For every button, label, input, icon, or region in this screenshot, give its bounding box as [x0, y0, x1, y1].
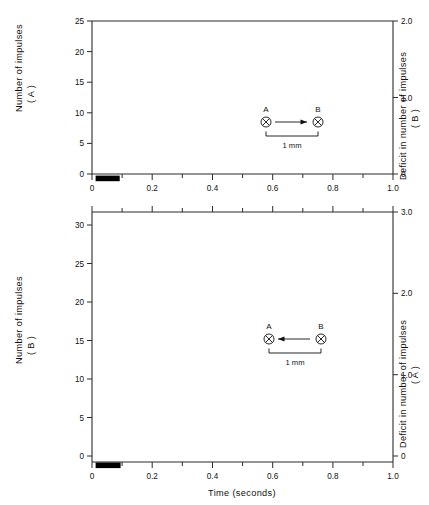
top-panel-x-ticks: 0 0.2 0.4 0.6 0.8 1.0: [90, 174, 399, 193]
bottom-panel-ytick-30: 30: [75, 221, 85, 230]
top-panel-ytick-5: 5: [79, 139, 84, 148]
top-panel: Number of impulses ( A ) Deficit in numb…: [0, 0, 429, 200]
top-panel-y-axis-title: Number of impulses ( A ): [14, 24, 36, 112]
bottom-panel-ytick-0: 0: [79, 452, 84, 461]
bottom-inset-label-left: A: [266, 322, 272, 331]
bottom-panel-svg: Number of impulses ( B ) Deficit in numb…: [0, 196, 429, 505]
top-panel-ytick-15: 15: [75, 78, 85, 87]
top-panel-y2label-line1: Deficit in number of impulses: [398, 52, 408, 180]
top-panel-xtick-0.2: 0.2: [147, 184, 159, 193]
bottom-panel-y2-axis-title: Deficit in number of impulses ( A ): [398, 320, 420, 448]
bottom-panel-x-ticks: 0 0.2 0.4 0.6 0.8 1.0: [90, 462, 399, 481]
bottom-panel-y-ticks: 0 5 10 15 20 25 30: [75, 221, 92, 461]
top-panel-ytick-25: 25: [75, 17, 85, 26]
bottom-panel-ytick-5: 5: [79, 414, 84, 423]
bottom-panel-xtick-1.0: 1.0: [387, 472, 399, 481]
top-panel-xtick-0.6: 0.6: [267, 184, 279, 193]
top-panel-y2label-line2: ( B ): [410, 109, 420, 128]
bottom-inset-label-right: B: [318, 322, 323, 331]
top-panel-ylabel-line1: Number of impulses: [14, 24, 24, 112]
bottom-panel-y2tick-0: 0: [401, 452, 406, 461]
bottom-panel-y-axis-title: Number of impulses ( B ): [14, 276, 36, 364]
top-panel-xtick-0: 0: [90, 184, 95, 193]
bottom-panel-xtick-0.2: 0.2: [147, 472, 159, 481]
bottom-panel-inset-diagram: A B: [264, 322, 326, 367]
top-panel-stimulus-bar: [96, 176, 120, 182]
bottom-panel-xtick-0.8: 0.8: [327, 472, 339, 481]
bottom-panel-xlabel: Time (seconds): [208, 488, 276, 498]
bottom-panel-top-x-ticks: [92, 206, 393, 212]
bottom-panel-xtick-0.4: 0.4: [207, 472, 219, 481]
top-panel-inset-diagram: A B: [261, 105, 323, 150]
top-panel-xtick-1.0: 1.0: [387, 184, 399, 193]
bottom-panel-ylabel-line2: ( B ): [26, 336, 36, 355]
bottom-panel-xtick-0.6: 0.6: [267, 472, 279, 481]
top-panel-ylabel-line2: ( A ): [26, 85, 36, 103]
bottom-panel-y2tick-3: 3.0: [401, 208, 413, 217]
bottom-inset-scale-label: 1 mm: [286, 358, 305, 367]
bottom-inset-arrow-left-icon: [278, 336, 310, 341]
bottom-panel-ylabel-line1: Number of impulses: [14, 276, 24, 364]
top-inset-label-right: B: [315, 105, 320, 114]
top-inset-scale-label: 1 mm: [283, 141, 302, 150]
top-panel-xtick-0.4: 0.4: [207, 184, 219, 193]
top-panel-y2-axis-title: Deficit in number of impulses ( B ): [398, 52, 420, 180]
top-inset-arrow-right-icon: [275, 119, 307, 124]
bottom-panel: Number of impulses ( B ) Deficit in numb…: [0, 196, 429, 505]
bottom-panel-ytick-10: 10: [75, 375, 85, 384]
top-inset-electrode-b-icon: [313, 117, 323, 127]
bottom-panel-ytick-20: 20: [75, 298, 85, 307]
bottom-inset-electrode-b-icon: [316, 334, 326, 344]
bottom-panel-y2label-line1: Deficit in number of impulses: [398, 320, 408, 448]
top-panel-ytick-20: 20: [75, 48, 85, 57]
top-panel-y-ticks: 0 5 10 15 20 25: [75, 17, 92, 179]
top-panel-y2tick-1: 1.0: [401, 94, 413, 103]
bottom-panel-xtick-0: 0: [90, 472, 95, 481]
top-inset-label-left: A: [263, 105, 269, 114]
bottom-inset-scale-bar: [269, 349, 321, 354]
top-panel-ytick-0: 0: [79, 170, 84, 179]
top-inset-scale-bar: [266, 132, 318, 137]
top-inset-electrode-a-icon: [261, 117, 271, 127]
figure-container: Number of impulses ( A ) Deficit in numb…: [0, 0, 429, 505]
top-panel-ytick-10: 10: [75, 109, 85, 118]
top-panel-y2tick-2: 2.0: [401, 17, 413, 26]
top-panel-y2tick-0: 0: [401, 170, 406, 179]
bottom-inset-electrode-a-icon: [264, 334, 274, 344]
bottom-panel-ytick-15: 15: [75, 337, 85, 346]
bottom-panel-stimulus-bar: [96, 463, 121, 469]
top-panel-xtick-0.8: 0.8: [327, 184, 339, 193]
bottom-panel-ytick-25: 25: [75, 260, 85, 269]
top-panel-svg: Number of impulses ( A ) Deficit in numb…: [0, 0, 429, 200]
bottom-panel-axes: [92, 212, 393, 462]
bottom-panel-y2tick-1: 1.0: [401, 371, 413, 380]
bottom-panel-y2tick-2: 2.0: [401, 289, 413, 298]
top-panel-axes: [92, 21, 393, 174]
